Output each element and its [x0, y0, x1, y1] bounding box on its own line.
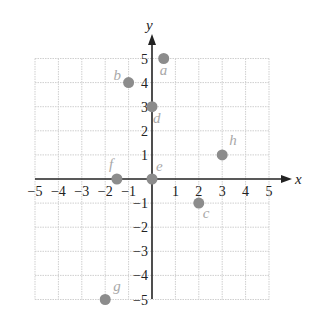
x-tick-label: −3 [74, 184, 89, 199]
data-point-h: h [217, 132, 237, 161]
x-tick-label: 5 [266, 184, 273, 199]
x-tick-label: 3 [219, 184, 226, 199]
point-label: d [153, 110, 161, 126]
y-tick-label: 2 [141, 124, 148, 139]
point-marker [123, 77, 134, 88]
x-tick-label: −4 [51, 184, 66, 199]
y-tick-label: −3 [133, 244, 148, 259]
y-tick-label: −2 [133, 220, 148, 235]
point-marker [100, 294, 111, 305]
point-label: c [203, 205, 210, 221]
point-label: e [156, 158, 163, 174]
x-tick-label: 4 [242, 184, 249, 199]
point-marker [217, 149, 228, 160]
point-label: h [229, 132, 237, 148]
y-tick-label: −1 [133, 196, 148, 211]
data-point-a: a [158, 53, 169, 78]
point-marker [111, 174, 122, 185]
x-axis-arrow-icon [281, 175, 292, 183]
data-point-f: f [109, 156, 123, 185]
y-tick-label: 1 [141, 148, 148, 163]
point-marker [147, 174, 158, 185]
x-tick-label: 1 [172, 184, 179, 199]
point-label: a [160, 62, 168, 78]
y-tick-label: 4 [141, 76, 148, 91]
data-point-g: g [100, 278, 122, 306]
x-axis-label: x [294, 171, 302, 187]
x-tick-label: −5 [28, 184, 43, 199]
data-point-e: e [147, 158, 164, 185]
y-tick-label: −4 [133, 268, 148, 283]
data-point-b: b [114, 67, 135, 89]
y-tick-label: 5 [141, 52, 148, 67]
y-tick-label: −5 [133, 293, 148, 308]
x-tick-labels: −5−4−3−2−112345 [28, 184, 273, 199]
x-tick-label: 2 [195, 184, 202, 199]
data-point-c: c [193, 198, 210, 222]
point-label: g [113, 278, 121, 294]
x-tick-label: −2 [98, 184, 113, 199]
y-axis-label: y [144, 17, 153, 33]
data-point-d: d [147, 101, 162, 126]
coordinate-plane: x y −5−4−3−2−112345 54321−1−2−3−4−5 abcd… [0, 0, 313, 321]
point-label: f [109, 156, 115, 172]
point-label: b [114, 67, 122, 83]
y-axis-arrow-icon [148, 34, 156, 45]
